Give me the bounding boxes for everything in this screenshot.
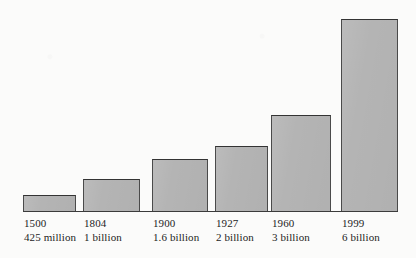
bar-label-1927: 1927 2 billion bbox=[216, 216, 254, 244]
bar-1900 bbox=[152, 159, 208, 211]
bar-label-value: 2 billion bbox=[216, 230, 254, 244]
bar-label-1804: 1804 1 billion bbox=[84, 216, 122, 244]
bar-1804 bbox=[83, 179, 140, 211]
bar-label-value: 425 million bbox=[24, 230, 76, 244]
bar-label-year: 1900 bbox=[153, 216, 199, 230]
bar-label-1500: 1500 425 million bbox=[24, 216, 76, 244]
bar-1999 bbox=[341, 19, 398, 211]
bar-label-value: 3 billion bbox=[272, 230, 310, 244]
bar-label-1900: 1900 1.6 billion bbox=[153, 216, 199, 244]
population-growth-bar-chart: 1500 425 million 1804 1 billion 1900 1.6… bbox=[0, 0, 416, 258]
bar-1960 bbox=[271, 115, 331, 211]
bar-label-value: 1 billion bbox=[84, 230, 122, 244]
bar-label-value: 1.6 billion bbox=[153, 230, 199, 244]
bar-1927 bbox=[215, 146, 268, 211]
bar-label-value: 6 billion bbox=[342, 230, 380, 244]
bar-label-year: 1960 bbox=[272, 216, 310, 230]
bar-label-1999: 1999 6 billion bbox=[342, 216, 380, 244]
chart-plot-area: 1500 425 million 1804 1 billion 1900 1.6… bbox=[0, 0, 416, 258]
bar-label-year: 1804 bbox=[84, 216, 122, 230]
bar-label-year: 1927 bbox=[216, 216, 254, 230]
bar-label-1960: 1960 3 billion bbox=[272, 216, 310, 244]
baseline-axis bbox=[23, 211, 398, 212]
bar-1500 bbox=[23, 195, 76, 211]
bar-label-year: 1999 bbox=[342, 216, 380, 230]
bar-label-year: 1500 bbox=[24, 216, 76, 230]
